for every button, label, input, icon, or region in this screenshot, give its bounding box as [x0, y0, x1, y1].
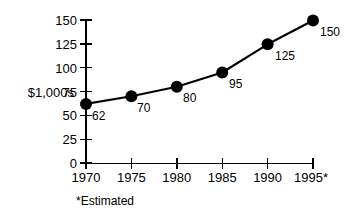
line-chart: $1,000s 150 125 100 75 50 25 0 1970 1975… — [0, 0, 355, 218]
point-value-label-62: 62 — [92, 110, 105, 122]
y-tick-label-125: 125 — [50, 37, 77, 50]
data-point — [171, 81, 183, 93]
footnote-estimated: *Estimated — [76, 195, 134, 207]
x-tick-label-1990: 1990 — [253, 171, 282, 184]
point-value-label-80: 80 — [183, 92, 196, 104]
x-tick-label-1985: 1985 — [208, 171, 237, 184]
point-value-label-150: 150 — [320, 26, 340, 38]
x-tick-label-1995: 1995* — [294, 171, 328, 184]
data-point — [80, 98, 92, 110]
point-value-label-125: 125 — [275, 50, 295, 62]
y-tick-label-100: 100 — [50, 61, 77, 74]
x-tick-label-1980: 1980 — [162, 171, 191, 184]
y-tick-label-25: 25 — [50, 133, 77, 146]
data-point — [262, 38, 274, 50]
y-tick-label-0: 0 — [50, 157, 77, 170]
data-point — [307, 15, 319, 27]
y-tick-label-50: 50 — [50, 109, 77, 122]
point-value-label-95: 95 — [229, 78, 242, 90]
y-tick-label-75: 75 — [50, 85, 77, 98]
x-tick-label-1975: 1975 — [117, 171, 146, 184]
x-tick-label-1970: 1970 — [72, 171, 101, 184]
y-tick-label-150: 150 — [50, 14, 77, 27]
point-value-label-70: 70 — [137, 102, 150, 114]
data-point — [125, 90, 137, 102]
data-point — [216, 67, 228, 79]
